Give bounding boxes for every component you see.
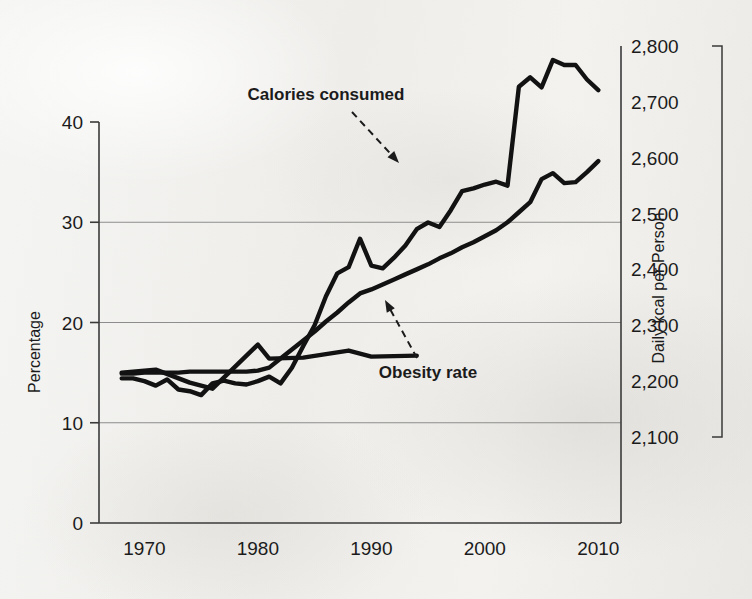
annotation-leader-obesity-rate (390, 310, 417, 358)
right-tick-label-2100: 2,100 (631, 427, 679, 448)
left-tick-label-30: 30 (62, 212, 83, 233)
annotations-group: Calories consumedObesity rate (248, 85, 478, 382)
annotation-arrowhead-obesity-rate (385, 300, 395, 313)
right-tick-label-2600: 2,600 (631, 148, 679, 169)
right-axis-bracket (712, 46, 722, 437)
annotation-arrowhead-calories-consumed (387, 151, 399, 163)
right-tick-label-2200: 2,200 (631, 371, 679, 392)
chart-svg: 010203040 2,1002,2002,3002,4002,5002,600… (0, 0, 752, 599)
data-series-group (122, 60, 599, 395)
x-tick-label-1970: 1970 (123, 538, 165, 559)
obesity-rate-line (122, 161, 599, 374)
right-tick-label-2800: 2,800 (631, 36, 679, 57)
chart-container: 010203040 2,1002,2002,3002,4002,5002,600… (0, 0, 752, 599)
right-axis-title: Daily kcal per Person (650, 212, 667, 363)
axes-group (99, 46, 722, 523)
x-axis-ticks-group: 19701980199020002010 (123, 538, 619, 559)
calories-consumed-line (122, 60, 599, 395)
x-tick-label-2000: 2000 (464, 538, 506, 559)
left-tick-label-40: 40 (62, 112, 83, 133)
x-tick-label-2010: 2010 (577, 538, 619, 559)
right-tick-label-2700: 2,700 (631, 92, 679, 113)
left-axis-title: Percentage (26, 311, 43, 393)
x-tick-label-1980: 1980 (237, 538, 279, 559)
left-tick-label-10: 10 (62, 413, 83, 434)
left-tick-label-20: 20 (62, 313, 83, 334)
annotation-label-calories-consumed: Calories consumed (248, 85, 405, 104)
gridlines-group (99, 222, 621, 423)
left-axis-ticks-group: 010203040 (62, 112, 99, 534)
annotation-leader-calories-consumed (352, 112, 392, 155)
left-tick-label-0: 0 (72, 513, 83, 534)
x-tick-label-1990: 1990 (350, 538, 392, 559)
annotation-label-obesity-rate: Obesity rate (379, 363, 477, 382)
